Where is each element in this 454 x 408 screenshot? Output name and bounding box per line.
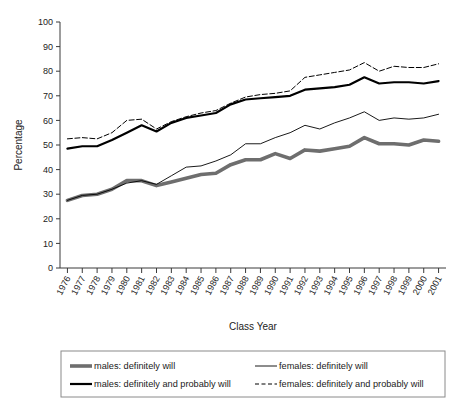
y-tick-label: 50 xyxy=(43,140,53,150)
legend-label: males: definitely and probably will xyxy=(94,379,231,389)
y-tick-label: 80 xyxy=(43,66,53,76)
y-axis-title: Percentage xyxy=(13,119,24,171)
y-tick-label: 30 xyxy=(43,189,53,199)
y-tick-label: 40 xyxy=(43,165,53,175)
y-tick-label: 90 xyxy=(43,42,53,52)
x-axis-title: Class Year xyxy=(229,321,277,332)
y-tick-label: 70 xyxy=(43,91,53,101)
chart-background xyxy=(0,0,454,408)
line-chart: 0102030405060708090100 19761977197819791… xyxy=(0,0,454,408)
legend-label: females: definitely and probably will xyxy=(279,379,424,389)
y-tick-label: 100 xyxy=(38,17,53,27)
y-tick-label: 0 xyxy=(48,263,53,273)
chart-figure: 0102030405060708090100 19761977197819791… xyxy=(0,0,454,408)
y-tick-label: 60 xyxy=(43,116,53,126)
legend-label: females: definitely will xyxy=(279,361,368,371)
y-tick-label: 10 xyxy=(43,239,53,249)
legend-label: males: definitely will xyxy=(94,361,175,371)
y-tick-label: 20 xyxy=(43,214,53,224)
